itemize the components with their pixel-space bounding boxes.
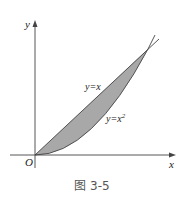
curve-y-equals-x-squared	[35, 35, 155, 155]
exponent: 2	[122, 112, 126, 120]
curve1-label: y=x	[84, 81, 101, 92]
curve2-label: y=x2	[105, 112, 126, 124]
origin-label: O	[25, 156, 33, 168]
curve-y-equals-x	[35, 39, 159, 155]
figure-canvas: y x O y=x y=x2	[0, 0, 184, 199]
figure-caption: 图 3-5	[0, 176, 184, 193]
y-axis-arrow-icon	[33, 20, 38, 27]
x-axis-label: x	[168, 158, 174, 170]
x-axis-arrow-icon	[169, 153, 176, 158]
y-axis-label: y	[24, 18, 30, 30]
